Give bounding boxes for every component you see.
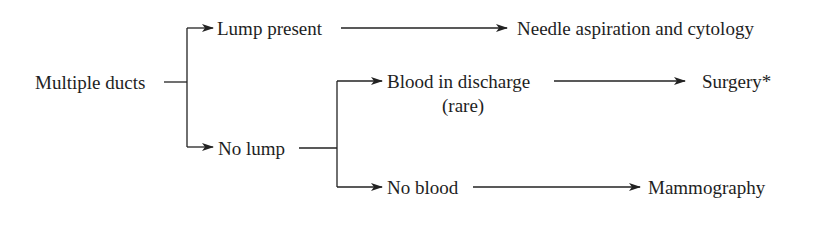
node-no-blood: No blood (387, 178, 458, 197)
node-multiple-ducts: Multiple ducts (35, 73, 145, 92)
node-needle-aspiration: Needle aspiration and cytology (517, 19, 754, 38)
node-blood-in-discharge: Blood in discharge (387, 72, 530, 91)
node-mammography: Mammography (648, 178, 765, 197)
node-blood-in-discharge-note: (rare) (442, 96, 484, 115)
node-no-lump: No lump (218, 139, 285, 158)
node-surgery: Surgery* (702, 72, 771, 91)
node-lump-present: Lump present (217, 19, 322, 38)
